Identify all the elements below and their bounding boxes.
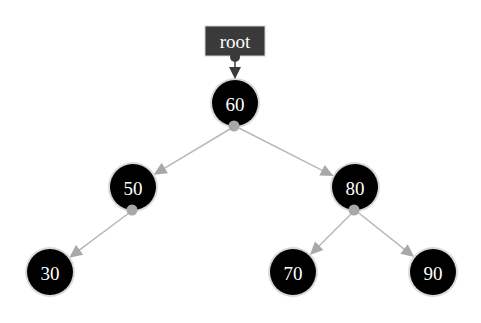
tree-node-60[interactable]: 60: [210, 78, 260, 128]
root-arrow-head-icon: [229, 67, 241, 79]
edge-80-90: [355, 210, 414, 257]
root-arrow-dot-icon: [230, 52, 240, 62]
node-value: 70: [284, 263, 303, 284]
tree-node-50[interactable]: 50: [108, 162, 158, 212]
edge-60-50: [154, 126, 235, 175]
root-pointer: root: [205, 26, 265, 79]
node-value: 60: [226, 94, 245, 115]
child-pointer-dot-icon: [349, 205, 360, 216]
binary-tree-diagram: 605080307090 root: [0, 0, 481, 323]
nodes: 605080307090: [25, 78, 458, 297]
arrow-head-icon: [400, 244, 414, 257]
arrow-head-icon: [154, 163, 168, 175]
child-pointer-dot-icon: [229, 121, 240, 132]
tree-node-80[interactable]: 80: [330, 162, 380, 212]
tree-node-30[interactable]: 30: [25, 247, 75, 297]
edge-80-70: [310, 210, 355, 255]
tree-node-90[interactable]: 90: [408, 247, 458, 297]
node-value: 90: [424, 263, 443, 284]
root-label: root: [220, 31, 251, 52]
node-value: 30: [41, 263, 60, 284]
edge-50-30: [69, 210, 133, 258]
node-value: 80: [346, 178, 365, 199]
edge-60-80: [235, 126, 334, 176]
tree-node-70[interactable]: 70: [268, 247, 318, 297]
node-value: 50: [124, 178, 143, 199]
child-pointer-dot-icon: [127, 205, 138, 216]
arrow-head-icon: [69, 245, 83, 258]
